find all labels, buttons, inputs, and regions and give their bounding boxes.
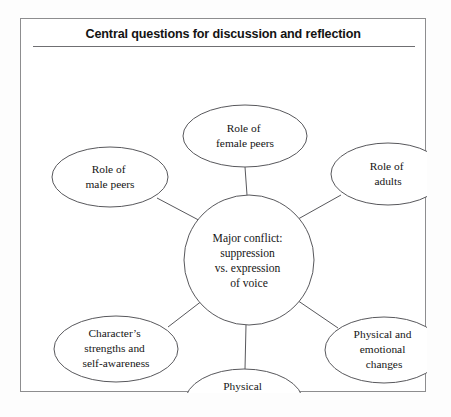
connector-center-to-female-peers xyxy=(245,167,247,195)
page-title: Central questions for discussion and ref… xyxy=(85,26,360,41)
center-node-circle[interactable] xyxy=(184,195,314,325)
node-characters-strengths-and-self-awareness[interactable]: Character’s strengths and self-awareness xyxy=(54,316,178,382)
title-band: Central questions for discussion and ref… xyxy=(21,19,425,47)
node-role-of-adults[interactable]: Role of adults xyxy=(331,143,427,205)
node-role-of-female-peers[interactable]: Role of female peers xyxy=(183,105,307,167)
radial-diagram: Major conflict: suppression vs. expressi… xyxy=(21,47,427,393)
node-physical-appearance-lookism[interactable]: Physical appearance— “Lookism” xyxy=(185,369,303,393)
node-characters-strengths-and-self-awareness-label: Character’s strengths and self-awareness xyxy=(82,327,150,369)
node-physical-and-emotional-changes[interactable]: Physical and emotional changes xyxy=(325,317,427,383)
figure-root: Central questions for discussion and ref… xyxy=(0,0,451,417)
connector-center-to-lookism xyxy=(245,325,246,369)
center-node[interactable]: Major conflict: suppression vs. expressi… xyxy=(184,195,314,325)
diagram-frame: Central questions for discussion and ref… xyxy=(20,18,426,392)
node-role-of-male-peers[interactable]: Role of male peers xyxy=(52,147,168,207)
